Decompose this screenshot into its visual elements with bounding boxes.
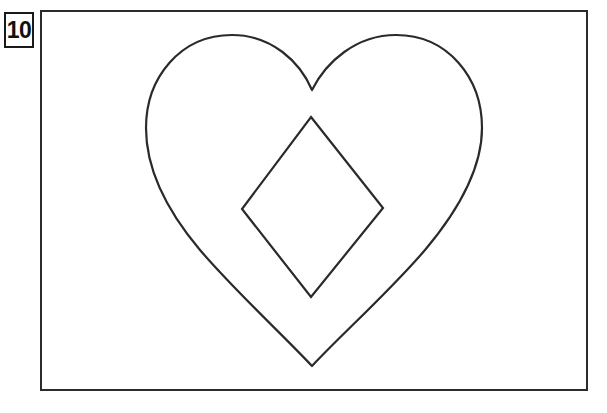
drawing-frame (40, 10, 588, 391)
figure-page: 10 (0, 0, 607, 413)
figure-number-text: 10 (7, 19, 32, 42)
figure-number-badge: 10 (4, 12, 34, 48)
